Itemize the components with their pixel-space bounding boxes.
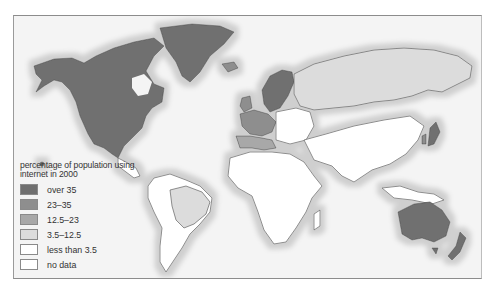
region-greenland	[160, 24, 234, 82]
region-scandinavia	[262, 70, 294, 112]
region-north-america	[34, 38, 164, 158]
legend-label: 23–35	[47, 200, 71, 210]
region-africa	[228, 152, 322, 244]
legend-item-over-35: over 35	[20, 182, 140, 197]
legend-swatch	[20, 244, 38, 255]
region-asia	[304, 116, 424, 182]
map-frame: percentage of population using internet …	[13, 15, 482, 279]
legend-swatch	[20, 199, 38, 210]
legend-label: over 35	[47, 185, 76, 195]
legend-item-less-than-3-5: less than 3.5	[20, 242, 140, 257]
legend-swatch	[20, 259, 38, 270]
legend-item-3-5-12-5: 3.5–12.5	[20, 227, 140, 242]
legend-swatch	[20, 214, 38, 225]
region-australia	[398, 202, 450, 242]
region-western-europe	[240, 110, 276, 136]
region-southern-europe	[236, 136, 276, 150]
legend-item-12-5-23: 12.5–23	[20, 212, 140, 227]
legend-item-23-35: 23–35	[20, 197, 140, 212]
region-southeast-asia	[382, 186, 444, 204]
legend-label: 12.5–23	[47, 215, 79, 225]
legend: percentage of population using internet …	[20, 161, 140, 272]
legend-label: 3.5–12.5	[47, 230, 81, 240]
legend-label: no data	[47, 260, 76, 270]
legend-label: less than 3.5	[47, 245, 97, 255]
legend-item-no-data: no data	[20, 257, 140, 272]
legend-swatch	[20, 184, 38, 195]
region-russia	[294, 48, 472, 110]
region-japan	[428, 122, 440, 146]
region-new-zealand	[448, 232, 466, 260]
legend-swatch	[20, 229, 38, 240]
legend-title: percentage of population using internet …	[20, 161, 140, 179]
